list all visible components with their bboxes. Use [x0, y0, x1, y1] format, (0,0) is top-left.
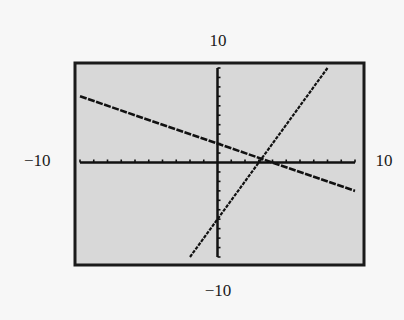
ymax-label: 10 [210, 32, 227, 49]
ymin-label: −10 [205, 282, 232, 299]
xmax-label: 10 [376, 152, 393, 169]
screen-background [75, 63, 364, 265]
graphing-calculator-screen [0, 0, 404, 320]
xmin-label: −10 [24, 152, 51, 169]
